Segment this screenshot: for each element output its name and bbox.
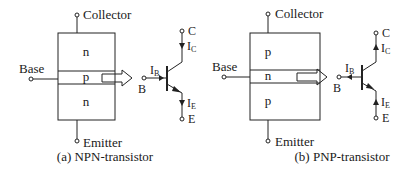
emitter-arrow-icon [172,86,181,93]
base-label: Base [212,59,238,74]
symbol-emitter-label: E [382,111,389,125]
npn-caption: (a) NPN-transistor [57,149,154,164]
emitter-current-arrow-icon [373,99,379,105]
collector-current-arrow-icon [373,44,379,50]
collector-current-arrow-icon [179,43,185,49]
collector-label: Collector [83,7,132,22]
emitter-terminal-icon [266,139,270,143]
diagram-svg: n p n Collector Emitter Base IB B [0,0,410,174]
collector-terminal-icon [266,12,270,16]
pnp-layer-block: p n p [250,33,320,120]
npn-layer-block: n p n [58,33,115,120]
base-current-arrow-icon [159,75,164,81]
symbol-base-terminal-icon [337,75,341,79]
layer-bottom-label: p [265,93,272,108]
symbol-base-label: B [138,82,146,96]
symbol-collector-terminal-icon [180,29,184,33]
emitter-current-label: IE [187,96,196,111]
emitter-current-arrow-icon [179,100,185,106]
pnp-panel: p n p Collector Emitter Base IB B C IC [212,6,390,164]
collector-label: Collector [275,6,324,21]
emitter-arrow-icon [366,83,374,89]
collector-terminal-icon [75,13,79,17]
layer-bottom-label: n [83,94,90,109]
emitter-terminal-icon [75,139,79,143]
pnp-transistor-symbol: IB B C IC E IE [333,26,390,125]
symbol-collector-terminal-icon [374,31,378,35]
layer-block-outline [250,33,320,120]
base-label: Base [19,61,45,76]
layer-middle-label: n [265,68,272,83]
symbol-collector-label: C [188,24,196,38]
layer-top-label: p [265,44,272,59]
pnp-caption: (b) PNP-transistor [295,149,391,164]
collector-diagonal [167,62,182,72]
layer-middle-label: p [83,69,90,84]
symbol-base-terminal-icon [142,76,146,80]
symbol-emitter-terminal-icon [374,116,378,120]
base-current-label: IB [345,61,354,76]
symbol-base-label: B [333,81,341,95]
base-current-label: IB [150,63,159,78]
base-terminal-icon [29,77,33,81]
emitter-label: Emitter [83,135,123,150]
emitter-label: Emitter [275,134,315,149]
npn-transistor-symbol: IB B C IC E IE [138,24,196,126]
emitter-current-label: IE [381,95,390,110]
layer-top-label: n [83,44,90,59]
collector-current-label: IC [381,41,390,56]
symbol-emitter-terminal-icon [180,117,184,121]
transistor-diagram: n p n Collector Emitter Base IB B [0,0,410,174]
symbol-collector-label: C [382,26,390,40]
npn-panel: n p n Collector Emitter Base IB B [19,7,196,164]
collector-current-label: IC [187,39,196,54]
base-terminal-icon [222,75,226,79]
collector-diagonal [362,62,376,71]
symbol-emitter-label: E [188,112,195,126]
